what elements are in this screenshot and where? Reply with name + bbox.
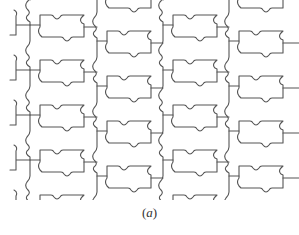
tiling-diagram bbox=[0, 0, 299, 200]
puzzle-tile bbox=[39, 195, 85, 200]
puzzle-tile bbox=[238, 76, 284, 102]
puzzle-tile bbox=[39, 60, 85, 86]
puzzle-tile bbox=[39, 105, 85, 131]
partial-tile-left bbox=[10, 55, 30, 80]
puzzle-tile bbox=[172, 105, 218, 131]
figure-caption: (a) bbox=[0, 205, 299, 221]
puzzle-tile bbox=[238, 121, 284, 147]
puzzle-tile bbox=[39, 15, 85, 41]
column-boundary-3 bbox=[159, 0, 163, 200]
puzzle-tile bbox=[172, 15, 218, 41]
puzzle-tile bbox=[106, 166, 152, 192]
column-boundary-4 bbox=[225, 0, 229, 200]
partial-tile-left bbox=[10, 100, 30, 125]
puzzle-tile bbox=[238, 166, 284, 192]
puzzle-tile bbox=[172, 60, 218, 86]
puzzle-tile bbox=[39, 150, 85, 176]
puzzle-tile bbox=[172, 195, 218, 200]
partial-tile-left bbox=[10, 145, 30, 170]
puzzle-tile bbox=[172, 150, 218, 176]
puzzle-tile bbox=[106, 31, 152, 57]
puzzle-tile bbox=[106, 121, 152, 147]
puzzle-tile bbox=[238, 0, 284, 12]
puzzle-tile bbox=[106, 76, 152, 102]
column-boundary-1 bbox=[26, 0, 30, 200]
column-boundary-2 bbox=[93, 0, 97, 200]
partial-tile-left bbox=[10, 10, 30, 35]
puzzle-tile bbox=[106, 0, 152, 12]
puzzle-tile bbox=[238, 31, 284, 57]
caption-close: ) bbox=[153, 205, 157, 220]
